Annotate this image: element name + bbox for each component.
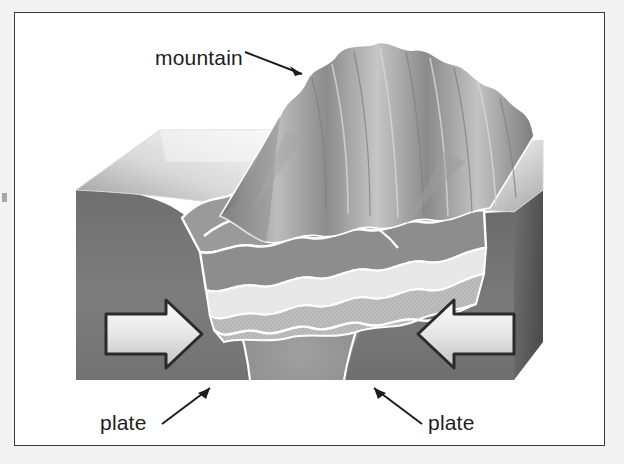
block-right-side-face xyxy=(514,190,543,380)
label-plate-left: plate xyxy=(100,388,210,434)
label-mountain: mountain xyxy=(155,46,302,76)
edge-artifact xyxy=(2,193,7,202)
block-diagram-illustration: mountain plate plate xyxy=(14,12,605,446)
label-mountain-text: mountain xyxy=(155,46,243,69)
figure-page: mountain plate plate xyxy=(0,0,624,464)
leader-arrowhead-plate-left xyxy=(198,388,210,399)
leader-arrowhead-plate-right xyxy=(374,388,386,399)
label-plate-right-text: plate xyxy=(428,411,475,434)
figure-canvas: mountain plate plate xyxy=(14,12,605,446)
label-plate-left-text: plate xyxy=(100,411,147,434)
label-plate-right: plate xyxy=(374,388,475,434)
mountain-range-crest xyxy=(220,42,534,242)
